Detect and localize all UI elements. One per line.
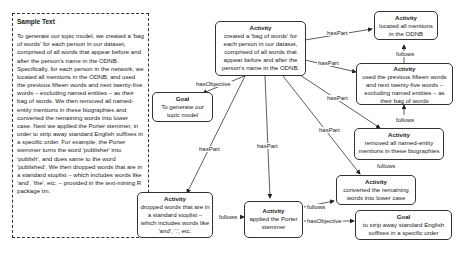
node-main-activity: Activity created a 'bag of words' for ea… (215, 21, 306, 76)
edge-label-follows: follows (395, 117, 415, 123)
node-type: Activity (218, 24, 303, 32)
edge-label-has-objective: hasObjective (195, 81, 232, 87)
node-text: To generate our topic model (161, 103, 204, 118)
node-porter-stemmer: Activity applied the Porter stemmer (244, 201, 303, 238)
node-type: Goal (155, 95, 210, 103)
edge-label-has-objective: hasObjective (306, 218, 343, 224)
node-type: Goal (358, 213, 449, 221)
edge-label-has-part: hasPart (198, 146, 221, 152)
edge-label-follows: follows (306, 204, 326, 210)
edge-label-follows: follows (395, 51, 415, 57)
node-goal-topic-model: Goal To generate our topic model (152, 92, 213, 122)
edge-label-has-part: hasPart (318, 127, 341, 133)
node-text: created a 'bag of words' for each person… (222, 32, 299, 71)
edge-label-has-part: hasPart (326, 95, 349, 101)
node-text: dropped words that are in a standard sto… (140, 203, 209, 234)
node-text: used the previous fifteen words and next… (362, 73, 446, 104)
node-text: applied the Porter stemmer (249, 215, 297, 230)
node-converted-lowercase: Activity converted the remaining words i… (336, 175, 416, 205)
node-text: converted the remaining words into lower… (343, 186, 408, 201)
node-text: to strip away standard English suffixes … (363, 221, 444, 236)
node-type: Activity (377, 14, 435, 22)
node-type: Activity (140, 195, 210, 203)
edge-label-follows: follows (376, 163, 396, 169)
edge-label-has-part: hasPart (317, 60, 340, 66)
edge-label-follows: follows (218, 214, 238, 220)
node-text: removed all named-entity mentions in the… (359, 139, 440, 154)
node-type: Activity (339, 178, 413, 186)
node-used-previous-words: Activity used the previous fifteen words… (356, 63, 453, 105)
node-type: Activity (357, 131, 441, 139)
node-dropped-stoplist: Activity dropped words that are in a sta… (137, 192, 213, 238)
node-type: Activity (359, 65, 450, 73)
node-located-mentions: Activity located all mentions in the ODN… (374, 11, 438, 40)
node-text: located all mentions in the ODNB (379, 22, 433, 37)
node-goal-strip-suffixes: Goal to strip away standard English suff… (355, 210, 452, 240)
edge-label-has-part: hasPart (326, 30, 349, 36)
edge-label-has-part: hasPart (256, 143, 279, 149)
node-type: Activity (247, 207, 300, 215)
node-removed-entities: Activity removed all named-entity mentio… (354, 128, 444, 160)
